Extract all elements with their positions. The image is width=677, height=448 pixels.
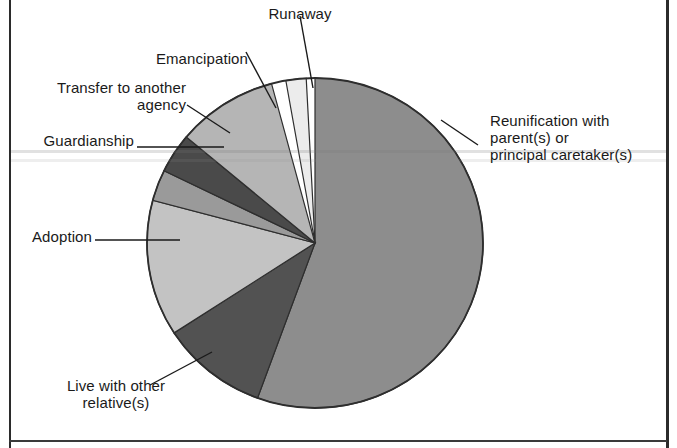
pie-chart-figure: Runaway Emancipation Transfer to another… [0, 0, 677, 448]
slice-label-reunification: Reunification with parent(s) or principa… [490, 112, 668, 163]
slice-label-runaway: Runaway [216, 5, 384, 22]
slice-label-adoption: Adoption [10, 228, 92, 245]
slice-label-guardianship: Guardianship [16, 132, 134, 149]
pie-slice-group [147, 78, 483, 408]
slice-label-live-with-other-relative: Live with other relative(s) [40, 377, 192, 411]
slice-label-transfer-to-another-agency: Transfer to another agency [20, 79, 186, 113]
slice-label-emancipation: Emancipation [92, 50, 248, 67]
leader-line-runaway [300, 16, 313, 88]
